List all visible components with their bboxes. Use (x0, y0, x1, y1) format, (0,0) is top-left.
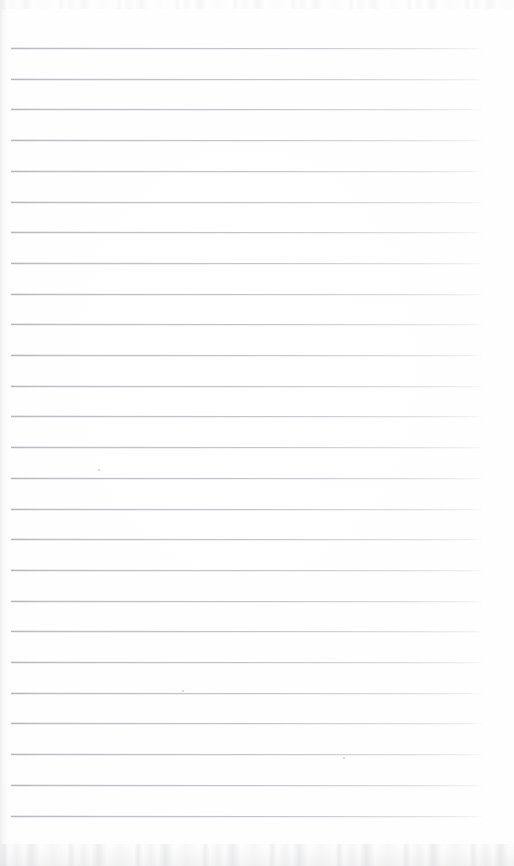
rule-line (11, 754, 482, 755)
rule-line (11, 539, 482, 540)
rule-line (11, 171, 482, 172)
scanned-page (0, 0, 514, 866)
rule-line (11, 631, 482, 632)
scan-speck (343, 757, 345, 759)
rule-line (11, 662, 482, 663)
rule-line (11, 785, 482, 786)
ruled-lines-container (0, 0, 514, 866)
scan-speck (182, 690, 184, 692)
scan-speck (98, 469, 100, 471)
rule-line (11, 355, 482, 356)
scan-noise-band-bottom (0, 844, 514, 866)
rule-line (11, 324, 482, 325)
rule-line (11, 693, 482, 694)
rule-line (11, 570, 482, 571)
rule-line (11, 48, 482, 49)
rule-line (11, 293, 482, 294)
rule-line (11, 79, 482, 80)
rule-line (11, 447, 482, 448)
rule-line (11, 815, 482, 816)
rule-line (11, 478, 482, 479)
rule-line (11, 723, 482, 724)
rule-line (11, 416, 482, 417)
rule-line (11, 232, 482, 233)
rule-line (11, 263, 482, 264)
rule-line (11, 386, 482, 387)
rule-line (11, 508, 482, 509)
rule-line (11, 140, 482, 141)
rule-line (11, 109, 482, 110)
rule-line (11, 600, 482, 601)
rule-line (11, 201, 482, 202)
scan-noise-band-top (0, 0, 514, 9)
